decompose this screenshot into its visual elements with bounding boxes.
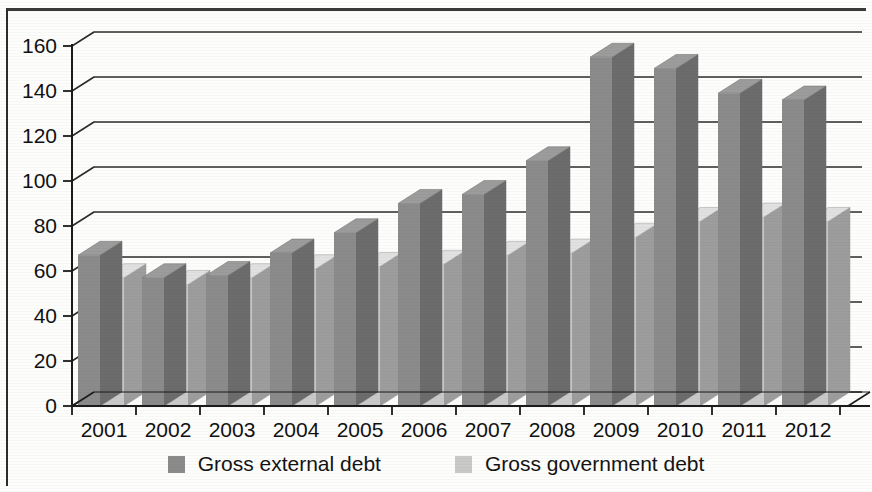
y-axis-tick-label: 80 (34, 214, 57, 237)
x-axis-tick-label: 2005 (337, 418, 384, 441)
bar-2002-gross-external-debt (142, 264, 186, 406)
y-axis-tick-label: 60 (34, 259, 57, 282)
y-axis-labels-group: 020406080100120140160 (22, 34, 57, 417)
chart-legend: Gross external debt Gross government deb… (0, 452, 872, 476)
legend-item-gross-government-debt: Gross government debt (455, 452, 704, 476)
x-axis-tick-label: 2006 (401, 418, 448, 441)
bar-chart-plot: 020406080100120140160 200120022003200420… (0, 0, 872, 492)
legend-item-gross-external-debt: Gross external debt (168, 452, 381, 476)
legend-label-gross-external-debt: Gross external debt (198, 452, 381, 476)
bar-2001-gross-external-debt (78, 241, 122, 406)
x-axis-tick-label: 2009 (593, 418, 640, 441)
y-axis-tick-label: 120 (22, 124, 57, 147)
bar-2007-gross-external-debt (462, 181, 506, 407)
bar-2012-gross-external-debt (782, 86, 826, 406)
bar-2011-gross-external-debt (718, 79, 762, 406)
y-axis-tick-label: 160 (22, 34, 57, 57)
y-axis-tick-label: 140 (22, 79, 57, 102)
y-axis-tick-label: 20 (34, 349, 57, 372)
bar-2010-gross-external-debt (654, 55, 698, 407)
x-axis-tick-label: 2001 (81, 418, 128, 441)
y-axis-ticks-group (63, 46, 72, 406)
legend-swatch-dark-icon (168, 456, 185, 473)
x-axis-tick-label: 2011 (721, 418, 766, 441)
x-axis-tick-label: 2010 (657, 418, 704, 441)
bar-2008-gross-external-debt (526, 147, 570, 406)
bar-2005-gross-external-debt (334, 219, 378, 406)
x-axis-tick-label: 2003 (209, 418, 256, 441)
legend-label-gross-government-debt: Gross government debt (485, 452, 704, 476)
bar-2003-gross-external-debt (206, 262, 250, 407)
y-axis-tick-label: 40 (34, 304, 57, 327)
y-axis-tick-label: 100 (22, 169, 57, 192)
x-axis-tick-label: 2002 (145, 418, 192, 441)
x-axis-tick-label: 2008 (529, 418, 576, 441)
x-axis-labels-group: 2001200220032004200520062007200820092010… (81, 418, 832, 441)
x-axis-tick-label: 2007 (465, 418, 512, 441)
bars-group (78, 43, 850, 406)
bar-2006-gross-external-debt (398, 190, 442, 407)
x-axis-tick-label: 2012 (785, 418, 832, 441)
bar-2009-gross-external-debt (590, 43, 634, 406)
chart-svg: 020406080100120140160 200120022003200420… (0, 0, 872, 492)
y-axis-tick-label: 0 (45, 394, 57, 417)
bar-2004-gross-external-debt (270, 239, 314, 406)
chart-root: 020406080100120140160 200120022003200420… (0, 0, 872, 492)
x-axis-tick-label: 2004 (273, 418, 320, 441)
legend-swatch-light-icon (455, 456, 472, 473)
x-axis-ticks-group (72, 406, 840, 415)
